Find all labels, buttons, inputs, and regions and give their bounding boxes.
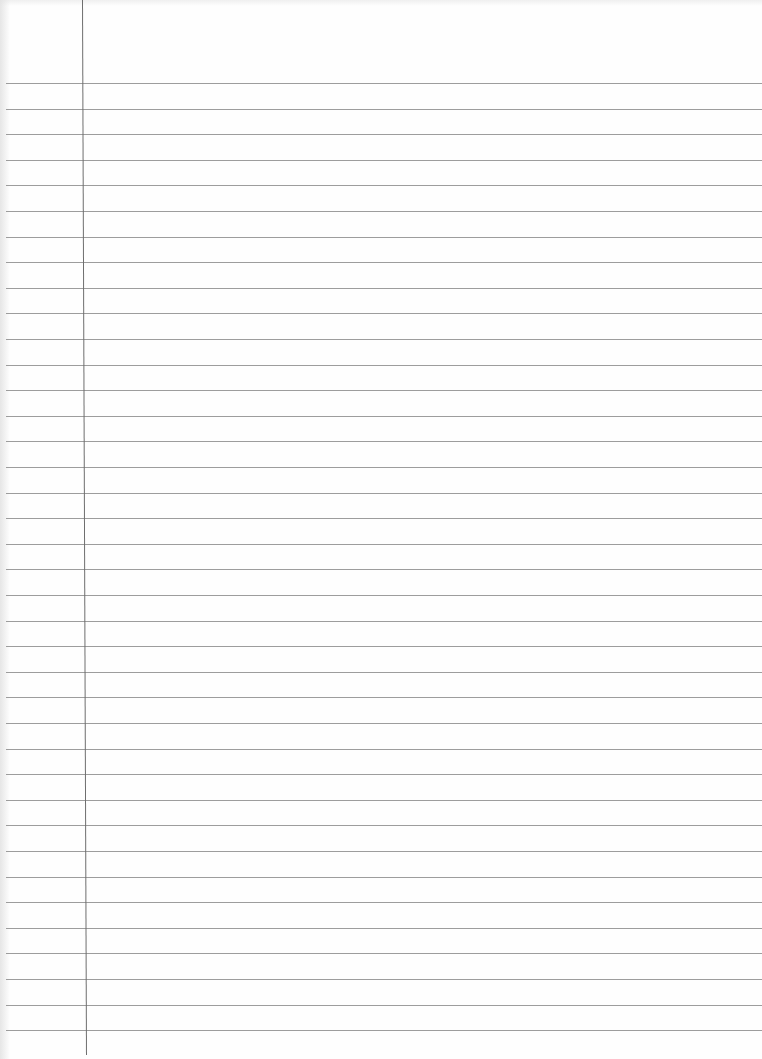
ruled-line	[6, 185, 762, 186]
ruled-line	[6, 697, 762, 698]
ruled-line	[6, 851, 762, 852]
ruled-line	[6, 569, 762, 570]
ruled-line	[6, 1005, 762, 1006]
ruled-line	[6, 877, 762, 878]
ruled-line	[6, 339, 762, 340]
ruled-line	[6, 262, 762, 263]
notebook-page	[0, 0, 762, 1059]
ruled-line	[6, 313, 762, 314]
ruled-line	[6, 1030, 762, 1031]
ruled-line	[6, 749, 762, 750]
ruled-line	[6, 365, 762, 366]
ruled-line	[6, 825, 762, 826]
ruled-line	[6, 441, 762, 442]
ruled-line	[6, 467, 762, 468]
ruled-line	[6, 134, 762, 135]
ruled-line	[6, 109, 762, 110]
ruled-line	[6, 595, 762, 596]
ruled-line	[6, 979, 762, 980]
ruled-line	[6, 774, 762, 775]
margin-line	[82, 0, 87, 1055]
ruled-line	[6, 953, 762, 954]
top-edge-shadow	[0, 0, 762, 6]
ruled-line	[6, 390, 762, 391]
ruled-line	[6, 416, 762, 417]
ruled-line	[6, 237, 762, 238]
ruled-line	[6, 672, 762, 673]
left-edge-shadow	[0, 0, 10, 1059]
ruled-line	[6, 160, 762, 161]
ruled-line	[6, 621, 762, 622]
ruled-line	[6, 83, 762, 84]
ruled-line	[6, 211, 762, 212]
ruled-line	[6, 723, 762, 724]
ruled-line	[6, 646, 762, 647]
ruled-line	[6, 493, 762, 494]
ruled-line	[6, 544, 762, 545]
ruled-line	[6, 902, 762, 903]
ruled-line	[6, 518, 762, 519]
ruled-line	[6, 800, 762, 801]
ruled-line	[6, 928, 762, 929]
ruled-line	[6, 288, 762, 289]
